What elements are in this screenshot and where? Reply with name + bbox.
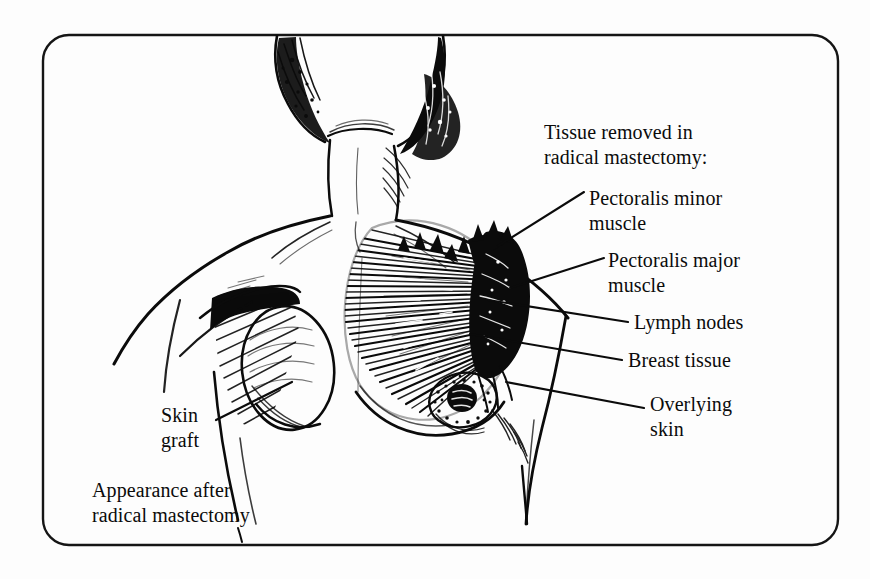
label-breast-tissue: Breast tissue — [628, 348, 731, 373]
label-overlying-skin: Overlying skin — [650, 392, 732, 442]
label-pectoralis-minor: Pectoralis minor muscle — [589, 186, 722, 236]
label-appearance-after: Appearance after radical mastectomy — [92, 478, 250, 528]
label-lymph-nodes: Lymph nodes — [634, 310, 743, 335]
label-skin-graft: Skin graft — [161, 403, 199, 453]
label-pectoralis-major: Pectoralis major muscle — [608, 248, 740, 298]
heading-tissue-removed: Tissue removed in radical mastectomy: — [544, 120, 708, 170]
illustration-page: Tissue removed in radical mastectomy: Pe… — [0, 0, 870, 579]
